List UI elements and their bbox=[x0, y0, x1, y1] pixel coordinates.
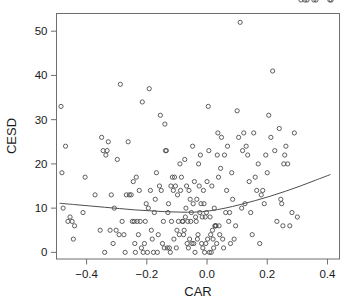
x-axis-title: CAR bbox=[184, 284, 211, 299]
x-tick-label: 0.0 bbox=[199, 268, 215, 280]
scatter-plot-figure: −0.4−0.20.00.20.4 01020304050 CAR CESD bbox=[0, 0, 351, 306]
y-tick-label: 30 bbox=[35, 114, 48, 126]
y-axis-title: CESD bbox=[4, 118, 19, 154]
y-tick-label: 50 bbox=[35, 25, 48, 37]
y-tick-label: 10 bbox=[35, 202, 48, 214]
x-tick-label: 0.4 bbox=[319, 268, 336, 280]
x-tick-label: −0.2 bbox=[135, 268, 158, 280]
y-tick-label: 0 bbox=[41, 246, 47, 258]
y-tick-label: 20 bbox=[35, 158, 48, 170]
plot-canvas: −0.4−0.20.00.20.4 01020304050 CAR CESD bbox=[0, 0, 351, 306]
x-tick-label: 0.2 bbox=[259, 268, 275, 280]
figure-background bbox=[0, 0, 351, 306]
x-tick-label: −0.4 bbox=[75, 268, 98, 280]
y-tick-label: 40 bbox=[35, 69, 48, 81]
